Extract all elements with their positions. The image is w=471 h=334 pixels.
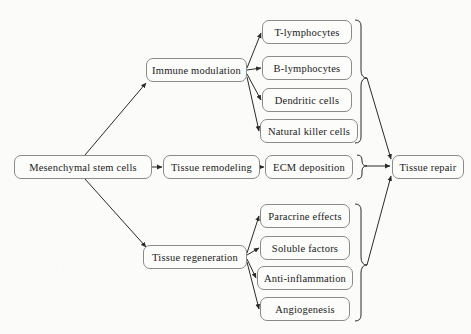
node-angiogenesis[interactable]: Angiogenesis	[260, 297, 350, 321]
flowchart-diagram: Mesenchymal stem cells Immune modulation…	[0, 0, 471, 334]
node-tissue-repair[interactable]: Tissue repair	[392, 155, 464, 179]
node-tissue-regeneration[interactable]: Tissue regeneration	[143, 245, 247, 269]
node-paracrine-effects[interactable]: Paracrine effects	[260, 204, 350, 228]
node-ecm-deposition[interactable]: ECM deposition	[265, 155, 353, 179]
node-t-lymphocytes[interactable]: T-lymphocytes	[262, 20, 352, 44]
regeneration-group-brace	[355, 204, 367, 321]
edge-regeneration-to-paracrine-effects	[247, 216, 259, 253]
edge-immune-to-t-lymphocytes	[247, 33, 261, 68]
edge-source-to-regeneration	[85, 179, 146, 247]
edge-regeneration-group-to-outcome	[367, 176, 391, 265]
edge-immune-to-b-lymphocytes	[247, 68, 261, 70]
node-soluble-factors[interactable]: Soluble factors	[260, 236, 350, 260]
edge-source-to-immune	[85, 83, 146, 155]
node-dendritic-cells[interactable]: Dendritic cells	[262, 88, 352, 112]
node-anti-inflammation[interactable]: Anti-inflammation	[257, 266, 353, 290]
edge-immune-group-to-outcome	[367, 78, 391, 159]
node-immune-modulation[interactable]: Immune modulation	[146, 58, 247, 82]
ecm-brace	[357, 155, 367, 179]
node-natural-killer-cells[interactable]: Natural killer cells	[260, 119, 358, 143]
node-mesenchymal-stem-cells[interactable]: Mesenchymal stem cells	[14, 155, 152, 179]
node-tissue-remodeling[interactable]: Tissue remodeling	[163, 155, 260, 179]
node-b-lymphocytes[interactable]: B-lymphocytes	[262, 56, 352, 80]
